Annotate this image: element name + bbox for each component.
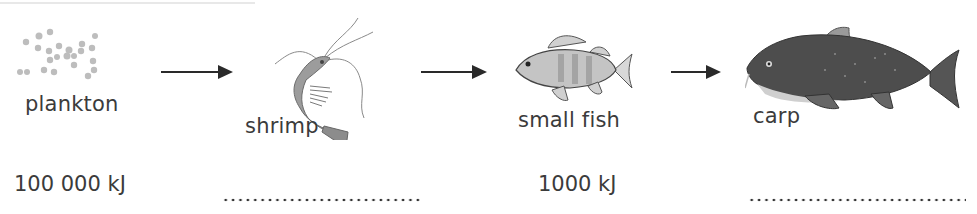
energy-blank-carp[interactable] <box>748 198 966 202</box>
organism-label-carp: carp <box>753 104 800 128</box>
organism-label-small-fish: small fish <box>518 108 620 132</box>
arrow-icon <box>160 64 234 80</box>
organism-label-plankton: plankton <box>25 92 119 116</box>
carp-icon <box>745 24 960 116</box>
organism-label-shrimp: shrimp <box>245 114 319 138</box>
top-divider <box>0 2 255 4</box>
energy-blank-shrimp[interactable] <box>222 198 422 202</box>
small-fish-icon <box>514 34 634 106</box>
plankton-icon <box>14 26 114 84</box>
arrow-icon <box>420 64 488 80</box>
energy-value-small-fish: 1000 kJ <box>538 172 616 196</box>
arrow-icon <box>670 64 722 80</box>
energy-value-plankton: 100 000 kJ <box>14 172 126 196</box>
